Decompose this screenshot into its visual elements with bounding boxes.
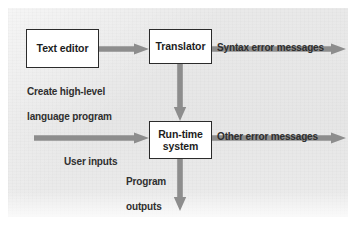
node-translator[interactable]: Translator (149, 29, 212, 64)
caption-create-program-line2: language program (27, 111, 112, 122)
caption-other-errors: Other error messages (217, 118, 356, 143)
node-translator-label: Translator (156, 40, 206, 53)
caption-create-program-line1: Create high-level (27, 86, 105, 97)
caption-program-outputs-line2: outputs (126, 201, 162, 212)
node-run-time-system-label-line2: system (163, 140, 199, 153)
caption-program-outputs: Program outputs (126, 163, 186, 213)
caption-other-errors-text: Other error messages (217, 131, 318, 142)
node-text-editor-label: Text editor (37, 42, 89, 55)
caption-program-outputs-line1: Program (126, 176, 166, 187)
arrow-editor-to-translator (99, 43, 149, 55)
caption-create-program: Create high-level language program (27, 73, 157, 123)
caption-syntax-errors: Syntax error messages (217, 29, 356, 54)
node-run-time-system[interactable]: Run-time system (149, 121, 212, 159)
caption-syntax-errors-text: Syntax error messages (217, 42, 324, 53)
diagram-panel: Text editor Translator Run-time system C… (8, 8, 348, 217)
node-run-time-system-label-line1: Run-time (158, 128, 203, 141)
caption-user-inputs-text: User inputs (64, 156, 117, 167)
arrow-translator-to-runtime (173, 64, 187, 121)
node-text-editor[interactable]: Text editor (26, 29, 99, 68)
diagram-canvas: Text editor Translator Run-time system C… (0, 0, 356, 225)
